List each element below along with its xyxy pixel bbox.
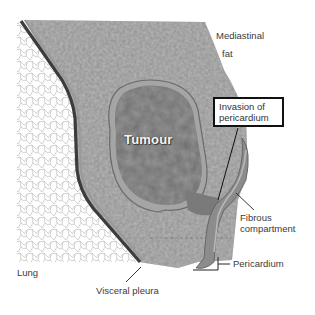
tumour-label: Tumour — [124, 132, 173, 147]
visceral-pleura-label: Visceral pleura — [96, 285, 159, 296]
fibrous-leader-line — [236, 193, 254, 210]
mediastinal-fat-label-line2: fat — [222, 48, 233, 59]
diagram-canvas: Mediastinal fat Tumour Invasion of peric… — [0, 0, 315, 315]
pericardium-label: Pericardium — [233, 258, 284, 269]
fibrous-compartment-label: Fibrous compartment — [240, 212, 295, 234]
mediastinal-fat-label: Mediastinal — [216, 30, 264, 41]
visceral-pleura-leader-line — [126, 267, 141, 282]
lung-label: Lung — [17, 267, 38, 278]
invasion-callout: Invasion of pericardium — [213, 97, 284, 127]
